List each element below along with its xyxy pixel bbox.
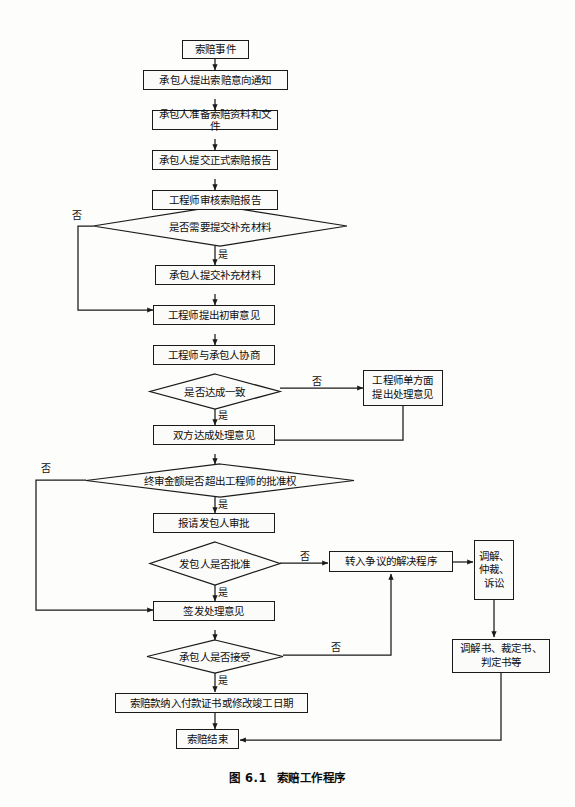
node-contractor-intent-notice[interactable]: 承包人提出索赔意向通知 — [143, 70, 288, 90]
node-mediation-line1: 调解、 — [479, 550, 510, 564]
node-engineer-review-report[interactable]: 工程师审核索赔报告 — [152, 190, 278, 210]
edge-label-d04-no: 否 — [300, 552, 310, 562]
edge-label-d03-yes: 是 — [218, 500, 228, 510]
node-submit-employer-approval[interactable]: 报请发包人审批 — [153, 513, 275, 533]
edge-label-d02-yes: 是 — [218, 411, 228, 421]
edge-label-d01-yes: 是 — [218, 250, 228, 260]
figure-caption-number: 图 6.1 — [229, 771, 267, 785]
edge-label-d05-no: 否 — [331, 643, 341, 653]
edge-label-d04-yes: 是 — [218, 588, 228, 598]
node-engineer-unilateral-opinion-line2: 提出处理意见 — [372, 388, 433, 402]
node-mediation-ruling-documents[interactable]: 调解书、裁定书、 判定书等 — [452, 639, 550, 673]
node-engineer-unilateral-opinion[interactable]: 工程师单方面 提出处理意见 — [363, 370, 443, 406]
edge-label-d01-no: 否 — [72, 211, 82, 221]
edge-label-d03-no: 否 — [41, 464, 51, 474]
node-claim-end[interactable]: 索赔结束 — [176, 729, 239, 749]
decision-amount-exceeds-authority-label: 终审金额是否超出工程师的批准权 — [86, 464, 354, 497]
node-mediation-ruling-line2: 判定书等 — [481, 656, 522, 670]
node-mediation-arbitration-litigation[interactable]: 调解、 仲裁、 诉讼 — [474, 540, 514, 600]
node-contractor-prepare-documents[interactable]: 承包人准备索赔资料和文件 — [152, 110, 278, 130]
node-mediation-line3: 诉讼 — [484, 577, 504, 591]
node-issue-handling-opinion[interactable]: 签发处理意见 — [153, 601, 275, 621]
figure-caption: 图 6.1索赔工作程序 — [0, 769, 575, 785]
figure-caption-title: 索赔工作程序 — [277, 771, 346, 785]
decision-employer-approves[interactable]: 发包人是否批准 — [150, 542, 280, 585]
decision-employer-approves-label: 发包人是否批准 — [150, 542, 280, 585]
decision-amount-exceeds-authority[interactable]: 终审金额是否超出工程师的批准权 — [86, 464, 354, 497]
node-engineer-negotiate-contractor[interactable]: 工程师与承包人协商 — [153, 345, 275, 365]
decision-need-supplementary-materials-label: 是否需要提交补充材料 — [93, 206, 347, 246]
node-mediation-line2: 仲裁、 — [479, 563, 510, 577]
decision-need-supplementary-materials[interactable]: 是否需要提交补充材料 — [93, 206, 347, 246]
decision-contractor-accepts-label: 承包人是否接受 — [147, 640, 283, 673]
node-claim-into-payment-certificate[interactable]: 索赔款纳入付款证书或修改竣工日期 — [115, 693, 308, 713]
decision-reached-agreement[interactable]: 是否达成一致 — [150, 374, 280, 409]
node-mediation-ruling-line1: 调解书、裁定书、 — [460, 642, 542, 656]
node-engineer-unilateral-opinion-line1: 工程师单方面 — [372, 374, 433, 388]
edge-label-d05-yes: 是 — [218, 676, 228, 686]
flowchart-connectors — [0, 0, 575, 807]
node-enter-dispute-resolution[interactable]: 转入争议的解决程序 — [329, 551, 453, 572]
node-both-parties-agree-opinion[interactable]: 双方达成处理意见 — [153, 425, 275, 445]
decision-contractor-accepts[interactable]: 承包人是否接受 — [147, 640, 283, 673]
flowchart-canvas: 索赔事件 承包人提出索赔意向通知 承包人准备索赔资料和文件 承包人提交正式索赔报… — [0, 0, 575, 807]
node-claim-event[interactable]: 索赔事件 — [182, 40, 249, 59]
node-contractor-submit-supplementary[interactable]: 承包人提交补充材料 — [155, 265, 275, 285]
edge-label-d02-no: 否 — [312, 377, 322, 387]
node-contractor-submit-formal-report[interactable]: 承包人提交正式索赔报告 — [152, 150, 278, 170]
node-engineer-preliminary-opinion[interactable]: 工程师提出初审意见 — [153, 305, 275, 325]
decision-reached-agreement-label: 是否达成一致 — [150, 374, 280, 409]
